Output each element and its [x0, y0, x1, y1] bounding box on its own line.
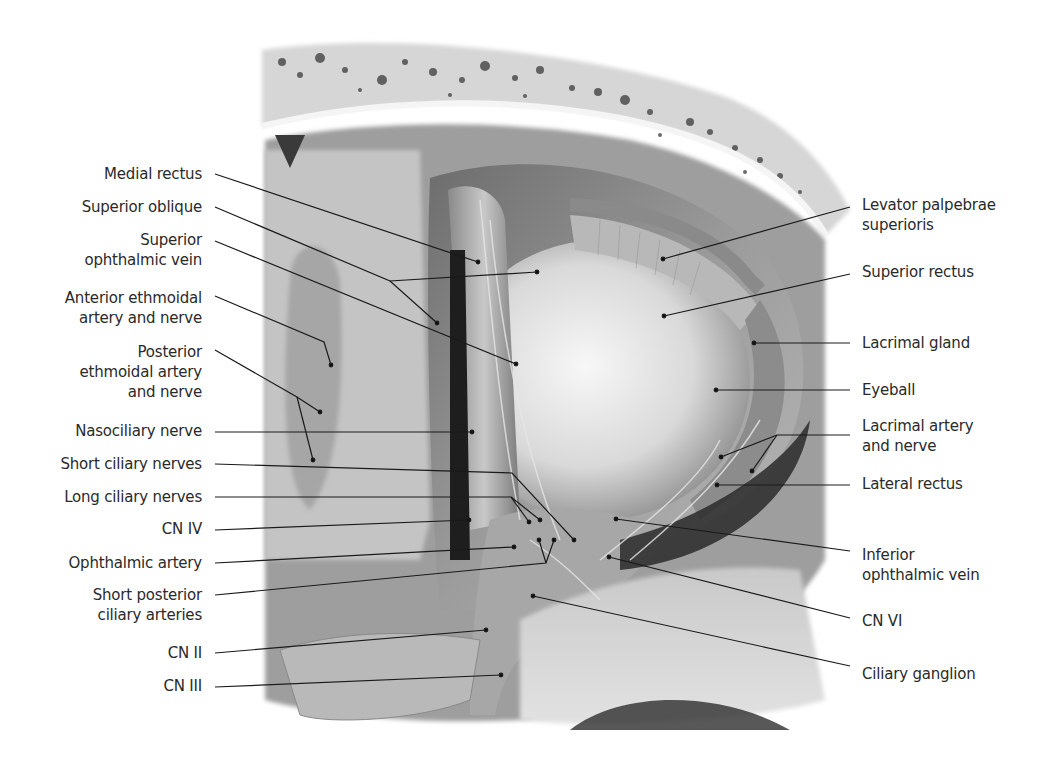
leader-lacrimal-artery-nerve-branch-dot — [750, 469, 754, 473]
leader-short-posterior-ciliary-arteries-branch-dot — [537, 538, 541, 542]
label-lacrimal-gland: Lacrimal gland — [862, 333, 970, 353]
leader-lacrimal-gland-dot — [752, 341, 756, 345]
leader-cn-iii-dot — [499, 673, 503, 677]
leader-short-posterior-ciliary-arteries-dot — [552, 538, 556, 542]
label-short-ciliary-nerves: Short ciliary nerves — [60, 454, 202, 474]
label-lateral-rectus: Lateral rectus — [862, 474, 963, 494]
label-short-posterior-ciliary-arteries: Short posterior ciliary arteries — [93, 585, 202, 625]
label-lacrimal-artery-nerve: Lacrimal artery and nerve — [862, 416, 973, 456]
leader-long-ciliary-nerves-branch-dot — [538, 518, 542, 522]
leader-posterior-ethmoidal-artery-nerve-branch-dot — [311, 458, 315, 462]
label-cn-iii: CN III — [163, 676, 202, 696]
leader-lateral-rectus-dot — [715, 483, 719, 487]
label-ophthalmic-artery: Ophthalmic artery — [69, 553, 203, 573]
label-medial-rectus: Medial rectus — [104, 164, 202, 184]
label-superior-rectus: Superior rectus — [862, 262, 974, 282]
label-levator-palpebrae-superioris: Levator palpebrae superioris — [862, 195, 996, 235]
label-superior-oblique: Superior oblique — [82, 197, 202, 217]
leader-short-ciliary-nerves-dot — [572, 538, 576, 542]
leader-superior-oblique-branch-dot — [535, 270, 539, 274]
label-cn-ii: CN II — [168, 643, 202, 663]
label-long-ciliary-nerves: Long ciliary nerves — [64, 487, 202, 507]
label-nasociliary-nerve: Nasociliary nerve — [75, 421, 202, 441]
leader-medial-rectus-dot — [476, 260, 480, 264]
leader-nasociliary-nerve-dot — [470, 430, 474, 434]
label-anterior-ethmoidal-artery-nerve: Anterior ethmoidal artery and nerve — [65, 288, 202, 328]
leader-posterior-ethmoidal-artery-nerve-dot — [318, 410, 322, 414]
leader-ciliary-ganglion-dot — [531, 594, 535, 598]
leader-inferior-ophthalmic-vein-dot — [614, 517, 618, 521]
leader-cn-vi-dot — [607, 555, 611, 559]
label-posterior-ethmoidal-artery-nerve: Posterior ethmoidal artery and nerve — [79, 342, 202, 402]
leader-superior-ophthalmic-vein-dot — [514, 362, 518, 366]
label-superior-ophthalmic-vein: Superior ophthalmic vein — [84, 230, 202, 270]
label-eyeball: Eyeball — [862, 380, 915, 400]
leader-cn-ii-dot — [484, 628, 488, 632]
leader-ophthalmic-artery-dot — [512, 545, 516, 549]
leader-levator-palpebrae-superioris-dot — [661, 257, 665, 261]
leader-superior-rectus-dot — [662, 314, 666, 318]
label-ciliary-ganglion: Ciliary ganglion — [862, 664, 976, 684]
leader-eyeball-dot — [714, 388, 718, 392]
leader-anterior-ethmoidal-artery-nerve-dot — [329, 363, 333, 367]
label-cn-iv: CN IV — [162, 519, 202, 539]
label-inferior-ophthalmic-vein: Inferior ophthalmic vein — [862, 545, 980, 585]
leader-lacrimal-artery-nerve-dot — [719, 455, 723, 459]
label-cn-vi: CN VI — [862, 611, 902, 631]
leader-cn-iv-dot — [467, 518, 471, 522]
leader-long-ciliary-nerves-dot — [527, 520, 531, 524]
leader-superior-oblique-dot — [435, 321, 439, 325]
